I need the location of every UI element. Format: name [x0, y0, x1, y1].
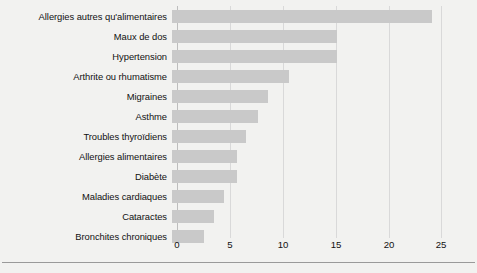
category-label: Allergies alimentaires [0, 151, 172, 162]
bar-arthrite-rhumatisme [172, 70, 289, 83]
category-label: Hypertension [0, 51, 172, 62]
category-label: Bronchites chroniques [0, 231, 172, 242]
bar-asthme [172, 110, 258, 123]
bar-track [172, 106, 477, 126]
bar-track [172, 166, 477, 186]
x-tick-20: 20 [384, 239, 395, 251]
bar-maladies-cardiaques [172, 190, 224, 203]
category-label: Maux de dos [0, 31, 172, 42]
bar-allergies-alimentaires [172, 150, 237, 163]
bar-migraines [172, 90, 268, 103]
bar-row: Asthme [0, 106, 477, 126]
bar-row: Arthrite ou rhumatisme [0, 66, 477, 86]
bar-row: Migraines [0, 86, 477, 106]
category-label: Maladies cardiaques [0, 191, 172, 202]
bar-track [172, 146, 477, 166]
bar-track [172, 6, 477, 26]
x-tick-25: 25 [436, 239, 447, 251]
bar-cataractes [172, 210, 214, 223]
x-tick-15: 15 [331, 239, 342, 251]
horizontal-bar-chart: Allergies autres qu'alimentaires Maux de… [0, 0, 477, 258]
bar-track [172, 126, 477, 146]
category-label: Diabète [0, 171, 172, 182]
category-label: Asthme [0, 111, 172, 122]
x-tick-0: 0 [174, 239, 179, 251]
x-tick-10: 10 [278, 239, 289, 251]
bar-track [172, 206, 477, 226]
bar-row: Allergies alimentaires [0, 146, 477, 166]
category-label: Allergies autres qu'alimentaires [0, 11, 172, 22]
bar-track [172, 86, 477, 106]
bar-row: Diabète [0, 166, 477, 186]
bar-track [172, 186, 477, 206]
bar-row: Troubles thyroïdiens [0, 126, 477, 146]
category-label: Migraines [0, 91, 172, 102]
bar-allergies-autres [172, 10, 432, 23]
category-label: Cataractes [0, 211, 172, 222]
bar-hypertension [172, 50, 337, 63]
category-label: Arthrite ou rhumatisme [0, 71, 172, 82]
bar-track [172, 66, 477, 86]
bar-row: Maladies cardiaques [0, 186, 477, 206]
x-axis-tick-labels: 0 5 10 15 20 25 [177, 239, 442, 255]
bar-troubles-thyroidiens [172, 130, 246, 143]
x-tick-5: 5 [227, 239, 232, 251]
bar-diabete [172, 170, 237, 183]
bar-row: Allergies autres qu'alimentaires [0, 6, 477, 26]
bar-row: Hypertension [0, 46, 477, 66]
bar-row: Maux de dos [0, 26, 477, 46]
bar-maux-de-dos [172, 30, 337, 43]
category-label: Troubles thyroïdiens [0, 131, 172, 142]
bar-track [172, 46, 477, 66]
footer-divider [2, 262, 475, 263]
chart-figure: Allergies autres qu'alimentaires Maux de… [0, 0, 477, 273]
bar-track [172, 26, 477, 46]
bar-row: Cataractes [0, 206, 477, 226]
